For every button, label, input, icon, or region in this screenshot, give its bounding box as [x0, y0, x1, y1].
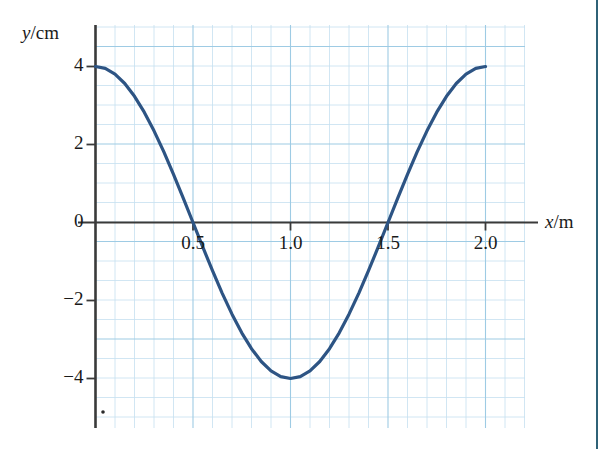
grid-minor-lines — [96, 25, 526, 428]
y-tick-label: −4 — [36, 366, 84, 388]
y-tick-label: −2 — [36, 288, 84, 310]
y-axis-label: y/cm — [22, 22, 59, 44]
x-tick-label: 2.0 — [464, 232, 508, 254]
x-tick-label: 1.5 — [366, 232, 410, 254]
page-right-rule — [596, 0, 598, 449]
x-tick-label: 1.0 — [269, 232, 313, 254]
x-tick-label: 0.5 — [171, 232, 215, 254]
y-tick-label: 4 — [36, 54, 84, 76]
corner-dot-marker — [101, 410, 105, 414]
wave-graph-figure: y/cm x/m 0.51.01.52.0 420−2−4 — [0, 0, 603, 449]
wave-plot-svg — [0, 0, 603, 449]
x-axis-unit: /m — [553, 211, 573, 232]
y-tick-label: 0 — [36, 210, 84, 232]
y-tick-label: 2 — [36, 132, 84, 154]
x-axis-label: x/m — [545, 211, 574, 233]
y-axis-unit: /cm — [30, 22, 59, 43]
